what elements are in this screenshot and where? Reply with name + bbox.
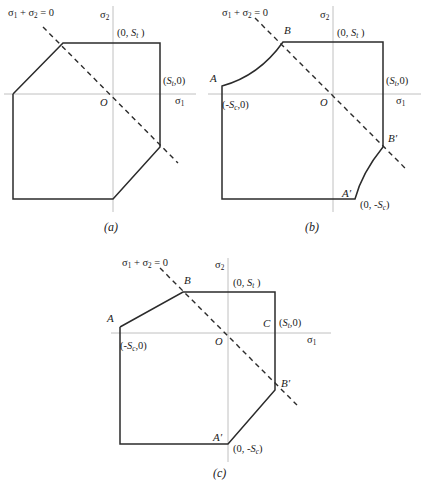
label-tensile-x-c: (St,0) (279, 317, 302, 330)
label-compressive-y-c: (0, -Sc) (233, 443, 263, 456)
label-compressive-y-b: (0, -Sc) (360, 199, 390, 212)
dashed-line-c (160, 268, 297, 405)
label-tensile-y-a: (0, St ) (117, 27, 145, 40)
subfigure-caption-b: (b) (305, 220, 319, 235)
axis-label-sigma2-a: σ2 (100, 9, 110, 22)
subfigure-caption-c: (c) (213, 466, 226, 481)
point-label-A-prime-b: A′ (341, 187, 352, 199)
origin-label-b: O (320, 97, 328, 108)
point-label-B-c: B (184, 274, 191, 286)
axis-label-sigma1-a: σ1 (175, 95, 185, 108)
label-tensile-y-b: (0, St ) (337, 27, 365, 40)
origin-label-c: O (215, 336, 223, 347)
failure-envelope-c (120, 292, 275, 444)
point-label-C-c: C (263, 317, 271, 329)
point-label-A-prime-c: A′ (212, 431, 223, 443)
subfigure-a-plot: σ1 + σ2 = 0 σ2 σ1 (0, St ) (St,0) O (0, 0, 200, 215)
dashed-line-label-c: σ1 + σ2 = 0 (122, 257, 168, 270)
origin-label-a: O (100, 97, 108, 108)
point-label-B-prime-c: B′ (281, 377, 291, 389)
label-tensile-x-a: (St,0) (163, 75, 186, 88)
dashed-line-label-b: σ1 + σ2 = 0 (222, 7, 268, 20)
axis-label-sigma2-b: σ2 (320, 9, 330, 22)
subfigure-caption-a: (a) (104, 220, 118, 235)
point-label-B-b: B (284, 24, 291, 36)
figure-container: σ1 + σ2 = 0 σ2 σ1 (0, St ) (St,0) O (a) … (0, 0, 425, 492)
dashed-line-label-a: σ1 + σ2 = 0 (8, 7, 54, 20)
axis-label-sigma1-c: σ1 (307, 334, 317, 347)
subfigure-b-plot: σ1 + σ2 = 0 σ2 σ1 (0, St ) (St,0) (-Sc,0… (200, 0, 425, 215)
label-tensile-x-b: (St,0) (386, 75, 409, 88)
axis-label-sigma1-b: σ1 (396, 95, 406, 108)
subfigure-c-plot: σ1 + σ2 = 0 σ2 σ1 (0, St ) (St,0) (-Sc,0… (85, 250, 335, 465)
failure-envelope-a (13, 43, 160, 199)
label-compressive-x-c: (-Sc,0) (120, 340, 147, 353)
point-label-A-b: A (209, 72, 217, 84)
label-tensile-y-c: (0, St ) (233, 277, 261, 290)
point-label-B-prime-b: B′ (388, 132, 398, 144)
label-compressive-x-b: (-Sc,0) (222, 99, 249, 112)
axis-label-sigma2-c: σ2 (215, 259, 225, 272)
point-label-A-c: A (106, 312, 114, 324)
dashed-line-a (43, 27, 178, 163)
